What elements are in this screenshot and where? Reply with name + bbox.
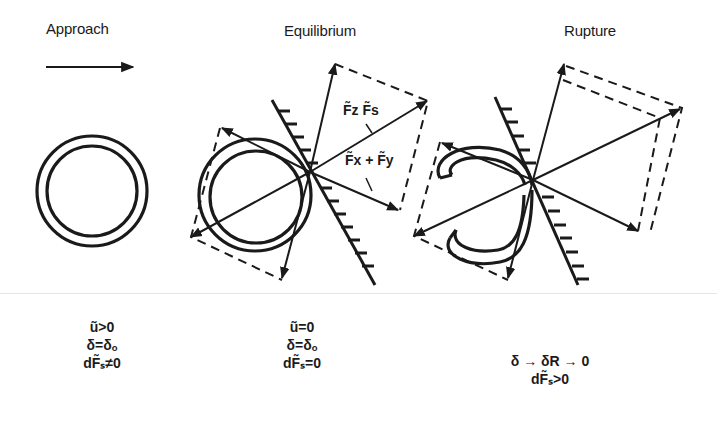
- condition-thickness: δ=δₒ: [262, 336, 342, 354]
- conditions-equilibrium: ũ=0 δ=δₒ dF̃ₛ=0: [262, 318, 342, 372]
- condition-thickness: δ=δₒ: [62, 336, 142, 354]
- conditions-rupture: δ → δR → 0 dF̃ₛ>0: [470, 352, 630, 388]
- condition-force: dF̃ₛ≠0: [62, 354, 142, 372]
- condition-velocity: ũ=0: [262, 318, 342, 336]
- separator-line: [0, 293, 717, 294]
- double-ring-icon: [37, 136, 147, 246]
- broken-ring-icon: [438, 147, 532, 263]
- rupture-panel: [414, 64, 682, 285]
- force-vectors: [414, 64, 680, 278]
- conditions-approach: ũ>0 δ=δₒ dF̃ₛ≠0: [62, 318, 142, 372]
- condition-force: dF̃ₛ=0: [262, 354, 342, 372]
- condition-velocity: ũ>0: [62, 318, 142, 336]
- condition-thickness: δ → δR → 0: [470, 352, 630, 370]
- condition-force: dF̃ₛ>0: [470, 370, 630, 388]
- force-label-fz-fs: F̃z F̃s: [343, 101, 379, 118]
- force-label-fx-fy: F̃x + F̃y: [345, 151, 394, 168]
- equilibrium-panel: [191, 64, 428, 285]
- approach-panel: [37, 67, 147, 246]
- force-vectors: [191, 64, 427, 278]
